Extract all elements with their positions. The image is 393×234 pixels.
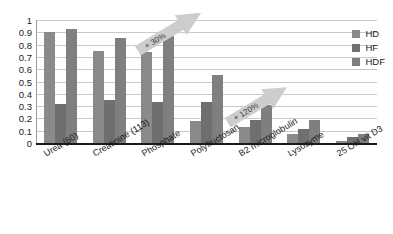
legend-item-hf[interactable]: HF — [352, 42, 385, 53]
bar-hd — [287, 134, 298, 143]
y-axis-tick-label: 1 — [0, 15, 36, 26]
bar-chart: 00.10.20.30.40.50.60.70.80.91 Urea (60)C… — [0, 0, 393, 234]
bar-hdf — [163, 36, 174, 143]
legend: HDHFHDF — [352, 28, 385, 67]
y-axis-tick-label: 0 — [0, 138, 36, 149]
y-axis-tick-label: 0.7 — [0, 51, 36, 62]
legend-item-hdf[interactable]: HDF — [352, 56, 385, 67]
y-axis-tick-label: 0.4 — [0, 88, 36, 99]
bar-hdf — [115, 38, 126, 143]
bar-group — [36, 20, 85, 143]
y-axis-tick-label: 0.9 — [0, 27, 36, 38]
bar-hdf — [66, 29, 77, 143]
bar-group — [231, 20, 280, 143]
bar-hd — [93, 51, 104, 143]
y-axis-tick-label: 0.8 — [0, 39, 36, 50]
plot-area: 00.10.20.30.40.50.60.70.80.91 — [36, 20, 377, 145]
bar-group — [182, 20, 231, 143]
legend-item-hd[interactable]: HD — [352, 28, 385, 39]
bar-groups — [36, 20, 377, 143]
legend-swatch-icon — [352, 44, 360, 52]
legend-swatch-icon — [352, 58, 360, 66]
bar-hd — [190, 121, 201, 143]
y-axis-tick-label: 0.3 — [0, 101, 36, 112]
x-axis-category-labels: Urea (60)Creatinine (113)PhosphatePolyfr… — [36, 150, 377, 230]
legend-label: HF — [365, 42, 378, 53]
y-axis-tick-label: 0.6 — [0, 64, 36, 75]
bar-hd — [44, 32, 55, 143]
legend-swatch-icon — [352, 30, 360, 38]
bar-group — [85, 20, 134, 143]
y-axis-tick-label: 0.1 — [0, 125, 36, 136]
legend-label: HDF — [365, 56, 385, 67]
legend-label: HD — [365, 28, 379, 39]
y-axis-tick-label: 0.5 — [0, 76, 36, 87]
y-axis-tick-label: 0.2 — [0, 113, 36, 124]
